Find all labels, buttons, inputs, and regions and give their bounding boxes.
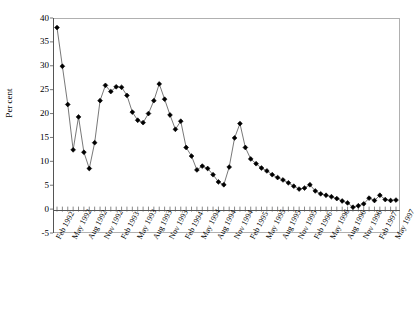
- data-point-marker: [340, 199, 345, 204]
- data-point-marker: [297, 187, 302, 192]
- data-point-marker: [162, 97, 167, 102]
- data-point-marker: [356, 203, 361, 208]
- data-point-marker: [286, 180, 291, 185]
- data-point-marker: [324, 193, 329, 198]
- data-point-marker: [76, 115, 81, 120]
- data-point-marker: [141, 120, 146, 125]
- data-point-marker: [243, 145, 248, 150]
- data-point-marker: [130, 110, 135, 115]
- data-point-marker: [238, 121, 243, 126]
- data-point-marker: [87, 166, 92, 171]
- data-point-marker: [189, 154, 194, 159]
- data-point-marker: [146, 111, 151, 116]
- data-point-marker: [302, 186, 307, 191]
- data-point-marker: [65, 102, 70, 107]
- series-line: [57, 28, 396, 208]
- data-point-marker: [184, 145, 189, 150]
- data-point-marker: [173, 127, 178, 132]
- data-point-marker: [168, 113, 173, 118]
- data-point-marker: [334, 196, 339, 201]
- data-point-marker: [135, 118, 140, 123]
- data-point-marker: [98, 98, 103, 103]
- data-point-marker: [281, 178, 286, 183]
- data-point-marker: [119, 85, 124, 90]
- data-point-marker: [275, 175, 280, 180]
- data-point-marker: [92, 140, 97, 145]
- data-point-marker: [388, 198, 393, 203]
- data-point-marker: [227, 165, 232, 170]
- data-point-marker: [318, 191, 323, 196]
- data-point-marker: [151, 98, 156, 103]
- data-point-marker: [71, 147, 76, 152]
- data-point-marker: [60, 64, 65, 69]
- data-point-marker: [329, 194, 334, 199]
- data-point-marker: [291, 184, 296, 189]
- data-point-marker: [125, 93, 130, 98]
- chart-root: 4035302520151050-5 Per cent Feb 1992May …: [0, 0, 418, 309]
- x-axis-tick-labels: Feb 1992May 1992Aug 1992Nov 1992Feb 1993…: [0, 233, 418, 309]
- data-point-marker: [221, 182, 226, 187]
- data-point-marker: [55, 25, 60, 30]
- data-point-marker: [178, 119, 183, 124]
- data-point-marker: [82, 150, 87, 155]
- data-point-marker: [157, 82, 162, 87]
- data-point-marker: [394, 198, 399, 203]
- data-point-marker: [232, 136, 237, 141]
